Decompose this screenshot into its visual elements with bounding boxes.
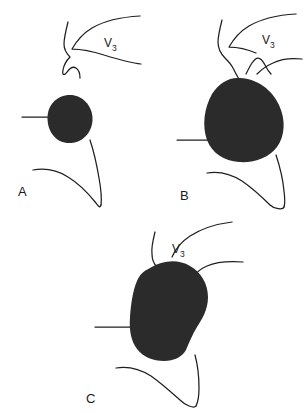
- vessel-label-subscript: 3: [270, 40, 275, 50]
- vessel-label-letter: V: [172, 242, 180, 256]
- vessel-label-letter: V: [104, 36, 112, 50]
- vessel-label-subscript: 3: [180, 249, 185, 259]
- tumor-mass-a: [47, 95, 92, 143]
- panel-letter-a: A: [18, 184, 27, 199]
- panel-letter-b: B: [180, 188, 189, 203]
- panel-letter-c: C: [86, 391, 95, 406]
- anatomical-figure: V3 A V3 B: [0, 0, 308, 413]
- vessel-label-letter: V: [262, 33, 270, 47]
- vessel-label-subscript: 3: [112, 43, 117, 53]
- figure-container: V3 A V3 B: [0, 0, 308, 413]
